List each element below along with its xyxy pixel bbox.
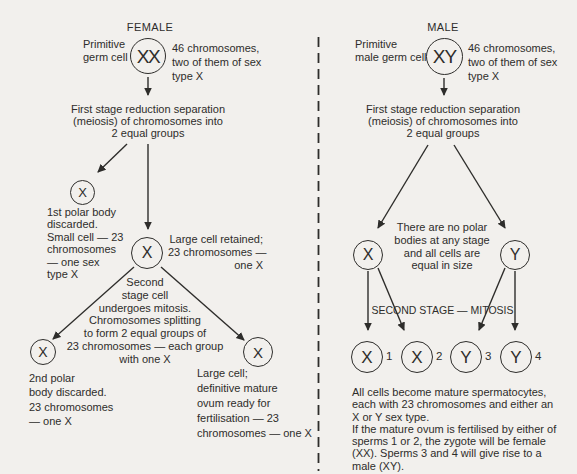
male-bottom-note: All cells become mature spermatocytes, e… [352, 386, 556, 472]
female-large-cell-symbol: X [142, 245, 153, 261]
female-chromosome-note: 46 chromosomes, two of them of sex type … [172, 41, 261, 83]
female-first-polar-body-symbol: X [78, 186, 87, 199]
sperm-cell-1-number: 1 [386, 350, 400, 362]
female-ovum-symbol: X [253, 345, 263, 360]
male-y-spermatocyte-cell: Y [500, 240, 530, 270]
male-title: MALE [393, 21, 493, 33]
female-primitive-germ-cell-label: Primitive germ cell [83, 38, 128, 64]
sperm-cell-1: X [351, 341, 383, 373]
sperm-cell-1-symbol: X [361, 349, 372, 366]
female-germ-cell: XX [130, 38, 166, 74]
male-second-stage-label: SECOND STAGE — MITOSIS [352, 304, 533, 317]
sperm-cell-3-symbol: Y [460, 349, 471, 366]
sperm-cell-4-symbol: Y [510, 349, 521, 366]
meiosis-diagram: FEMALE Primitive germ cell XX 46 chromos… [0, 0, 577, 474]
female-second-polar-body-note: 2nd polar body discarded. 23 chromosomes… [29, 371, 113, 428]
male-chromosome-note: 46 chromosomes, two of them of sex type … [468, 41, 557, 83]
sperm-cell-4-number: 4 [535, 350, 549, 362]
male-no-polar-bodies-note: There are no polar bodies at any stage a… [381, 221, 503, 272]
male-x-spermatocyte-cell: X [353, 240, 383, 270]
female-first-polar-body-note: 1st polar body discarded. Small cell — 2… [47, 206, 123, 280]
sperm-cell-3: Y [450, 341, 482, 373]
female-ovum-note: Large cell; definitive mature ovum ready… [197, 366, 312, 441]
female-second-polar-body-cell: X [30, 339, 56, 365]
sperm-cell-2-number: 2 [436, 350, 450, 362]
female-second-polar-body-symbol: X [38, 345, 47, 359]
sperm-cell-2: X [401, 341, 433, 373]
female-large-cell-note: Large cell retained; 23 chromosomes — on… [168, 233, 263, 273]
female-ovum-cell: X [243, 337, 273, 367]
female-germ-cell-symbol: XX [137, 47, 159, 66]
male-germ-cell-symbol: XY [433, 47, 456, 66]
male-germ-cell: XY [426, 38, 463, 75]
male-first-stage-text: First stage reduction separation (meiosi… [333, 103, 553, 139]
female-second-stage-text: Second stage cell undergoes mitosis. Chr… [35, 276, 255, 366]
male-primitive-germ-cell-label: Primitive male germ cell [355, 38, 427, 64]
sperm-cell-4: Y [500, 341, 532, 373]
female-large-cell: X [131, 237, 163, 269]
male-x-spermatocyte-symbol: X [363, 247, 374, 263]
sperm-cell-2-symbol: X [411, 349, 422, 366]
female-first-polar-body-cell: X [70, 180, 95, 205]
male-y-spermatocyte-symbol: Y [510, 247, 521, 263]
female-title: FEMALE [100, 21, 200, 33]
female-first-stage-text: First stage reduction separation (meiosi… [38, 103, 258, 139]
sperm-cell-3-number: 3 [485, 350, 499, 362]
